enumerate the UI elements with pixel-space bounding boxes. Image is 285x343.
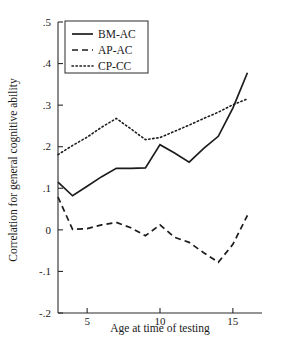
- y-tick-label: .2: [43, 140, 51, 152]
- series-line-cp-cc: [58, 99, 247, 155]
- legend-label-cp-cc: CP-CC: [98, 60, 132, 72]
- legend-label-bm-ac: BM-AC: [98, 28, 136, 40]
- y-tick-label: -.2: [39, 307, 51, 319]
- line-chart: -.2-.10.1.2.3.4.551015 BM-ACAP-ACCP-CC A…: [0, 0, 285, 343]
- figure-container: -.2-.10.1.2.3.4.551015 BM-ACAP-ACCP-CC A…: [0, 0, 285, 343]
- x-tick-label: 15: [227, 315, 239, 327]
- series-layer: [58, 73, 247, 263]
- y-tick-label: .1: [43, 182, 51, 194]
- y-tick-label: -.1: [39, 265, 51, 277]
- series-line-bm-ac: [58, 73, 247, 196]
- y-tick-label: .5: [43, 16, 52, 28]
- x-tick-label: 5: [84, 315, 90, 327]
- legend-label-ap-ac: AP-AC: [98, 44, 133, 56]
- y-axis-title: Correlation for general cognitive abilit…: [7, 78, 20, 262]
- x-axis-title: Age at time of testing: [110, 322, 210, 335]
- y-tick-label: .4: [43, 57, 52, 69]
- y-tick-label: 0: [46, 224, 52, 236]
- series-line-ap-ac: [58, 197, 247, 262]
- y-tick-label: .3: [43, 99, 52, 111]
- chart-legend: BM-ACAP-ACCP-CC: [65, 21, 148, 73]
